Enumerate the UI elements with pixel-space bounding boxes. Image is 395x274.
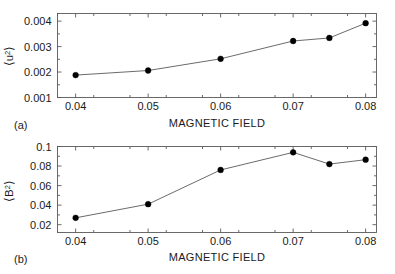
- x-tick-label: 0.06: [210, 100, 231, 112]
- y-tick-label: 0.08: [30, 160, 51, 172]
- data-point-marker[interactable]: [290, 38, 296, 44]
- y-tick-label: 0.004: [24, 15, 52, 27]
- y-axis-title-base: ⟨B: [3, 189, 15, 202]
- x-tick-label: 0.07: [282, 235, 303, 247]
- y-tick-label: 0.06: [30, 180, 51, 192]
- x-tick-label: 0.05: [137, 100, 158, 112]
- data-point-marker[interactable]: [73, 215, 79, 221]
- data-point-marker[interactable]: [326, 35, 332, 41]
- y-tick-label: 0.002: [24, 66, 52, 78]
- x-tick-label: 0.08: [355, 235, 376, 247]
- x-tick-label: 0.05: [137, 235, 158, 247]
- panel-label: (b): [14, 253, 27, 265]
- y-tick-label: 0.003: [24, 41, 52, 53]
- y-axis-title: ⟨B2⟩: [3, 180, 16, 202]
- data-point-marker[interactable]: [363, 157, 369, 163]
- x-tick-label: 0.08: [355, 100, 376, 112]
- x-tick-label: 0.07: [282, 100, 303, 112]
- x-axis-title: MAGNETIC FIELD: [169, 117, 266, 129]
- data-point-marker[interactable]: [363, 20, 369, 26]
- y-tick-label: 0.04: [30, 199, 51, 211]
- figure-container: 0.040.050.060.070.080.0010.0020.0030.004…: [0, 0, 395, 274]
- data-point-marker[interactable]: [145, 68, 151, 74]
- y-tick-label: 0.001: [24, 92, 52, 104]
- x-tick-label: 0.04: [65, 100, 86, 112]
- figure-svg: 0.040.050.060.070.080.0010.0020.0030.004…: [0, 0, 395, 274]
- x-axis-title: MAGNETIC FIELD: [169, 251, 266, 263]
- data-point-marker[interactable]: [218, 167, 224, 173]
- y-axis-title-close: ⟩: [3, 46, 15, 51]
- y-axis-title: ⟨u2⟩: [3, 46, 16, 67]
- y-axis-title-base: ⟨u: [3, 55, 15, 66]
- data-point-marker[interactable]: [326, 161, 332, 167]
- y-axis-title-close: ⟩: [3, 180, 15, 185]
- y-tick-label: 0.1: [36, 141, 51, 153]
- panel-label: (a): [14, 119, 27, 131]
- data-point-marker[interactable]: [145, 201, 151, 207]
- data-point-marker[interactable]: [73, 72, 79, 78]
- x-tick-label: 0.06: [210, 235, 231, 247]
- data-point-marker[interactable]: [218, 56, 224, 62]
- y-tick-label: 0.02: [30, 219, 51, 231]
- data-point-marker[interactable]: [290, 149, 296, 155]
- x-tick-label: 0.04: [65, 235, 86, 247]
